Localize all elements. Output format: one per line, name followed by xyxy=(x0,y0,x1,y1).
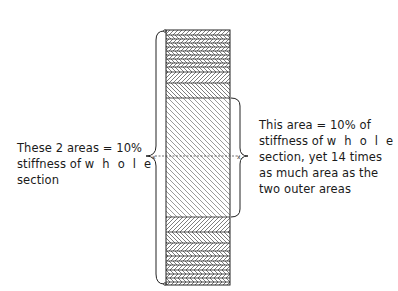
right-annotation-text: stiffness of xyxy=(259,134,327,148)
left-annotation-text: w h o l e xyxy=(85,157,153,171)
bottom-outer-layers xyxy=(166,217,230,285)
core-area xyxy=(166,98,230,217)
right-annotation-text: w h o l e xyxy=(327,134,395,148)
right-annotation-line: two outer areas xyxy=(259,181,395,197)
right-annotation: This area = 10% of stiffness of w h o l … xyxy=(259,117,395,197)
right-annotation-line: This area = 10% of xyxy=(259,117,395,133)
left-annotation-line: section xyxy=(17,172,153,188)
left-annotation-text: stiffness of xyxy=(17,157,85,171)
left-annotation-line: stiffness of w h o l e xyxy=(17,156,153,172)
top-outer-layers xyxy=(166,30,230,98)
neutral-axis-marker-right: x xyxy=(237,153,241,160)
left-annotation-line: These 2 areas = 10% xyxy=(17,140,153,156)
right-annotation-line: stiffness of w h o l e xyxy=(259,133,395,149)
right-annotation-line: as much area as the xyxy=(259,165,395,181)
left-annotation: These 2 areas = 10% stiffness of w h o l… xyxy=(17,140,153,188)
right-annotation-line: section, yet 14 times xyxy=(259,149,395,165)
